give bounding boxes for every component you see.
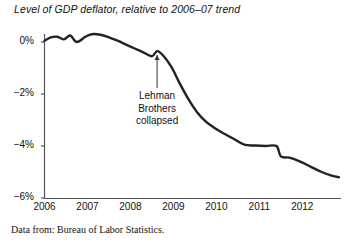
annotation-line-1: Lehman <box>116 90 198 103</box>
y-tick-label: 0% <box>4 35 34 46</box>
annotation-arrow-head <box>154 55 159 60</box>
chart-figure: Level of GDP deflator, relative to 2006–… <box>0 0 348 243</box>
x-tick-label: 2011 <box>239 201 279 212</box>
source-caption: Data from: Bureau of Labor Statistics. <box>11 224 164 235</box>
x-tick-label: 2006 <box>25 201 65 212</box>
x-tick-label: 2009 <box>153 201 193 212</box>
y-tick-label: −2% <box>4 87 34 98</box>
x-tick-label: 2008 <box>110 201 150 212</box>
annotation-arrow-group <box>154 55 159 88</box>
y-tick-label: −4% <box>4 139 34 150</box>
x-tick-label: 2007 <box>67 201 107 212</box>
x-tick-label: 2010 <box>196 201 236 212</box>
annotation-line-2: Brothers <box>116 103 198 116</box>
annotation-line-3: collapsed <box>116 115 198 128</box>
x-tick-label: 2012 <box>282 201 322 212</box>
annotation-lehman-collapse: Lehman Brothers collapsed <box>116 90 198 128</box>
